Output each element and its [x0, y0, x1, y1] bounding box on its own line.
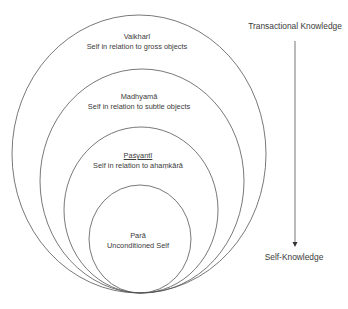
madhyama-label: Madhyamā Self in relation to subtle obje… — [88, 92, 190, 112]
madhyama-name: Madhyamā — [88, 92, 190, 102]
vaikhari-name: Vaikharī — [87, 32, 188, 42]
para-name: Parā — [107, 231, 169, 241]
pasyanti-name: Paśyantī — [93, 151, 183, 161]
arrow-down-icon — [293, 242, 298, 247]
madhyama-description: Self in relation to subtle objects — [88, 102, 190, 112]
pasyanti-description: Self in relation to ahaṃkārā — [93, 161, 183, 171]
para-description: Unconditioned Self — [107, 241, 169, 251]
self-knowledge-label: Self-Knowledge — [265, 252, 324, 262]
vaikhari-description: Self in relation to gross objects — [87, 42, 188, 52]
transactional-knowledge-label: Transactional Knowledge — [248, 21, 342, 31]
para-label: Parā Unconditioned Self — [107, 231, 169, 251]
vaikhari-label: Vaikharī Self in relation to gross objec… — [87, 32, 188, 52]
pasyanti-label: Paśyantī Self in relation to ahaṃkārā — [93, 151, 183, 171]
